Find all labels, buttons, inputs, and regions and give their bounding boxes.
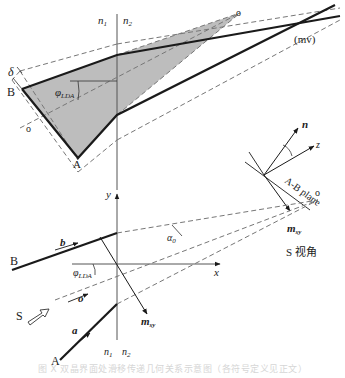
- label-n2-top: n2: [123, 14, 133, 28]
- slip-transfer-diagram: n1 n2 δ B A φLDA o o (mv) n z A-B plane …: [0, 0, 345, 378]
- label-z: z: [315, 139, 320, 150]
- s-view-arrow: [28, 309, 49, 325]
- label-s-view: S 视角: [286, 245, 317, 258]
- figure-caption: 图 X 双晶界面处滑移传递几何关系示意图（各符号定义见正文）: [0, 362, 345, 375]
- label-S: S: [16, 309, 23, 323]
- label-B-bottom: B: [10, 254, 18, 268]
- label-mv: (mv): [294, 33, 316, 46]
- label-n1-top: n1: [98, 14, 107, 28]
- label-o-point: o: [315, 187, 320, 198]
- label-o-vector: o: [78, 292, 84, 304]
- label-a-vector: a: [72, 324, 78, 336]
- top-panel: n1 n2 δ B A φLDA o o (mv): [7, 5, 340, 190]
- bottom-panel: y x o α0 b B φLDA o S msy a A n1 n2: [10, 187, 320, 368]
- label-A-top: A: [73, 158, 81, 170]
- label-B-top: B: [7, 85, 15, 99]
- label-phi-bottom: φLDA: [73, 267, 92, 280]
- label-m-bottom: msy: [141, 315, 156, 329]
- label-n1-bottom: n1: [104, 346, 113, 359]
- label-o-left: o: [26, 123, 31, 134]
- label-n-side: n: [302, 118, 308, 130]
- label-y: y: [105, 188, 111, 200]
- label-o-right: o: [236, 7, 241, 18]
- label-m-side: msy: [287, 222, 302, 236]
- label-x: x: [213, 266, 219, 278]
- side-view: n z A-B plane msy S 视角: [245, 118, 323, 258]
- label-b-vector: b: [60, 236, 66, 248]
- label-delta: δ: [8, 65, 14, 79]
- label-alpha: α0: [167, 232, 176, 245]
- label-n2-bottom: n2: [122, 346, 131, 359]
